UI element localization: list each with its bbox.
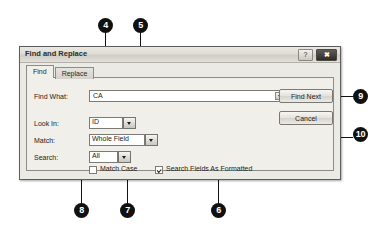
dialog-titlebar[interactable]: Find and Replace ? ✖ (20, 47, 340, 63)
callout-6: 6 (211, 203, 226, 218)
match-combo[interactable]: Whole Field (89, 134, 158, 146)
match-label: Match: (34, 137, 55, 144)
cancel-button[interactable]: Cancel (279, 111, 333, 125)
tab-strip: Find Replace (26, 65, 95, 78)
callout-8: 8 (74, 203, 89, 218)
look-in-value: ID (92, 118, 99, 125)
match-value: Whole Field (92, 135, 129, 142)
look-in-combo[interactable]: ID (89, 117, 136, 129)
search-combo[interactable]: All (89, 151, 131, 163)
search-value: All (92, 152, 100, 159)
look-in-label: Look In: (34, 120, 59, 127)
titlebar-button-group: ? ✖ (298, 49, 337, 61)
screenshot-canvas: Find and Replace ? ✖ Find Replace Find W… (0, 0, 390, 234)
search-dropdown-icon[interactable] (118, 151, 131, 163)
find-what-label: Find What: (34, 93, 68, 100)
look-in-dropdown-icon[interactable] (123, 117, 136, 129)
find-what-value: CA (93, 92, 103, 99)
callout-10: 10 (353, 127, 368, 142)
search-fields-as-formatted-label: Search Fields As Formatted (166, 165, 252, 172)
callout-5: 5 (133, 18, 148, 33)
help-glyph: ? (299, 49, 312, 60)
find-what-input[interactable]: CA (89, 90, 288, 102)
tab-replace[interactable]: Replace (55, 67, 95, 79)
match-dropdown-icon[interactable] (145, 134, 158, 146)
find-and-replace-dialog: Find and Replace ? ✖ Find Replace Find W… (19, 46, 341, 180)
close-glyph: ✖ (317, 49, 336, 60)
callout-9: 9 (353, 89, 368, 104)
search-fields-as-formatted-box-icon[interactable] (155, 166, 163, 174)
find-next-button[interactable]: Find Next (279, 89, 333, 103)
close-icon[interactable]: ✖ (316, 49, 337, 61)
help-icon[interactable]: ? (298, 49, 313, 61)
dialog-title: Find and Replace (25, 49, 87, 58)
callout-7: 7 (120, 203, 135, 218)
callout-4: 4 (98, 18, 113, 33)
match-case-label: Match Case (100, 165, 137, 172)
match-case-box-icon[interactable] (89, 166, 97, 174)
search-label: Search: (34, 154, 58, 161)
tab-find[interactable]: Find (26, 65, 54, 78)
